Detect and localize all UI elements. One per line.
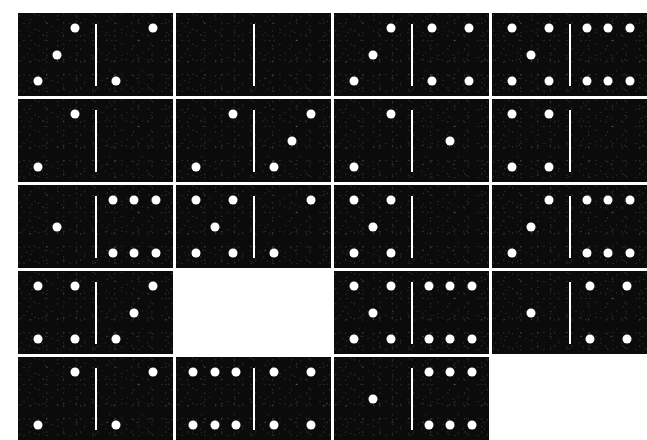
domino-divider-line xyxy=(253,24,255,86)
domino-half-right xyxy=(254,185,332,268)
domino-pip xyxy=(526,222,535,231)
domino-pip xyxy=(625,23,634,32)
domino-pip xyxy=(108,195,117,204)
domino-tile[interactable] xyxy=(492,271,647,354)
domino-pip xyxy=(604,23,613,32)
domino-pip xyxy=(350,281,359,290)
domino-pip xyxy=(151,195,160,204)
domino-tile[interactable] xyxy=(176,99,331,182)
domino-pip xyxy=(427,77,436,86)
domino-half-left xyxy=(492,271,570,354)
domino-tile[interactable] xyxy=(492,13,647,96)
domino-pip xyxy=(269,421,278,430)
domino-pip xyxy=(71,335,80,344)
domino-pip xyxy=(387,249,396,258)
domino-tile[interactable] xyxy=(18,271,173,354)
domino-pip xyxy=(508,249,517,258)
domino-pip xyxy=(306,109,315,118)
domino-tile[interactable] xyxy=(492,99,647,182)
domino-pip xyxy=(387,281,396,290)
domino-tile[interactable] xyxy=(18,99,173,182)
domino-tile[interactable] xyxy=(334,271,489,354)
domino-divider-line xyxy=(95,24,97,86)
domino-half-right xyxy=(254,13,332,96)
domino-divider-line xyxy=(411,110,413,172)
domino-pip xyxy=(368,50,377,59)
domino-pip xyxy=(582,23,591,32)
domino-pip xyxy=(464,77,473,86)
domino-pip xyxy=(229,109,238,118)
domino-pip xyxy=(526,50,535,59)
domino-pip xyxy=(232,367,241,376)
domino-pip xyxy=(288,136,297,145)
domino-pip xyxy=(34,335,43,344)
domino-half-right xyxy=(570,99,647,182)
domino-pip xyxy=(229,195,238,204)
domino-pip xyxy=(625,249,634,258)
domino-half-right xyxy=(412,13,490,96)
domino-half-left xyxy=(176,99,254,182)
domino-pip xyxy=(427,23,436,32)
domino-pip xyxy=(622,335,631,344)
domino-pip xyxy=(622,281,631,290)
domino-pip xyxy=(350,249,359,258)
domino-pip xyxy=(424,281,433,290)
domino-half-right xyxy=(412,185,490,268)
domino-divider-line xyxy=(569,196,571,258)
domino-pip xyxy=(192,249,201,258)
domino-divider-line xyxy=(411,282,413,344)
domino-divider-line xyxy=(253,110,255,172)
domino-half-right xyxy=(570,185,647,268)
domino-pip xyxy=(350,335,359,344)
domino-half-left xyxy=(492,99,570,182)
domino-tile[interactable] xyxy=(176,185,331,268)
domino-half-left xyxy=(176,13,254,96)
domino-pip xyxy=(387,109,396,118)
domino-half-left xyxy=(176,357,254,440)
domino-pip xyxy=(189,367,198,376)
domino-pip xyxy=(71,281,80,290)
domino-tile[interactable] xyxy=(334,99,489,182)
domino-pip xyxy=(34,163,43,172)
domino-half-right xyxy=(96,271,174,354)
domino-pip xyxy=(508,77,517,86)
domino-pip xyxy=(545,109,554,118)
domino-half-right xyxy=(254,99,332,182)
domino-tile[interactable] xyxy=(18,357,173,440)
domino-tile[interactable] xyxy=(176,13,331,96)
domino-pip xyxy=(52,50,61,59)
domino-pip xyxy=(582,249,591,258)
domino-pip xyxy=(111,77,120,86)
domino-half-left xyxy=(18,99,96,182)
domino-pip xyxy=(464,23,473,32)
domino-pip xyxy=(34,77,43,86)
domino-half-left xyxy=(18,357,96,440)
domino-divider-line xyxy=(569,110,571,172)
domino-tile[interactable] xyxy=(492,185,647,268)
domino-half-right xyxy=(254,357,332,440)
domino-empty-slot xyxy=(492,357,647,440)
domino-pip xyxy=(34,421,43,430)
domino-half-left xyxy=(492,185,570,268)
domino-half-left xyxy=(334,13,412,96)
domino-pip xyxy=(585,281,594,290)
domino-half-right xyxy=(412,357,490,440)
domino-tile[interactable] xyxy=(18,185,173,268)
domino-pip xyxy=(192,163,201,172)
domino-divider-line xyxy=(95,368,97,430)
domino-pip xyxy=(269,249,278,258)
domino-pip xyxy=(582,77,591,86)
domino-tile[interactable] xyxy=(176,357,331,440)
domino-divider-line xyxy=(95,110,97,172)
domino-pip xyxy=(210,367,219,376)
domino-half-left xyxy=(18,13,96,96)
domino-pip xyxy=(232,421,241,430)
domino-tile[interactable] xyxy=(18,13,173,96)
domino-tile[interactable] xyxy=(334,13,489,96)
domino-pip xyxy=(604,77,613,86)
domino-tile[interactable] xyxy=(334,185,489,268)
domino-pip xyxy=(71,23,80,32)
domino-tile[interactable] xyxy=(334,357,489,440)
domino-pip xyxy=(350,163,359,172)
domino-half-left xyxy=(334,357,412,440)
